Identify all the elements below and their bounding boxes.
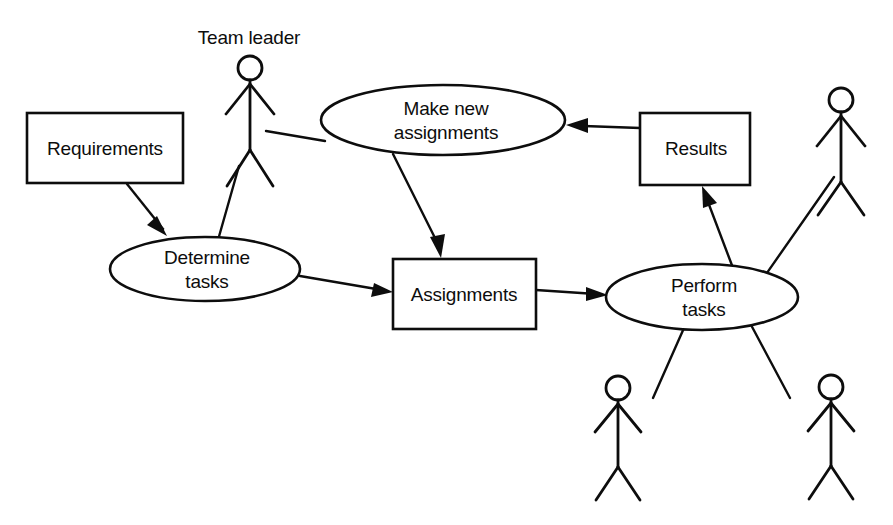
actor-left-leg-line <box>596 467 618 500</box>
flow-make-new-assignments-to-assignments <box>393 154 445 258</box>
perform-tasks-label-line1: Perform <box>671 275 737 296</box>
actor-left-arm-line <box>817 116 841 146</box>
node-make-new-assignments[interactable]: Make new assignments <box>321 85 565 155</box>
diagram-canvas: Requirements Make new assignments Result… <box>0 0 893 525</box>
actor-worker-bottom-left[interactable] <box>595 376 641 500</box>
flow-line <box>300 276 382 290</box>
actor-left-leg-line <box>227 150 250 186</box>
actor-right-arm-line <box>250 84 274 114</box>
actor-team-leader-label: Team leader <box>198 27 301 48</box>
actor-head-icon <box>829 88 853 112</box>
actor-worker-bottom-right[interactable] <box>808 375 854 499</box>
actor-left-arm-line <box>226 84 250 114</box>
make-new-assignments-label-line1: Make new <box>404 98 489 119</box>
arrowhead-icon <box>586 287 608 301</box>
actor-right-leg-line <box>250 150 273 186</box>
assignments-label: Assignments <box>411 284 518 305</box>
actor-right-arm-line <box>841 116 865 146</box>
association-team-leader-make-new-assignments <box>266 131 325 141</box>
flow-line <box>393 154 437 242</box>
association-worker-bottom-right-perform-tasks <box>750 323 790 398</box>
arrowhead-icon <box>566 118 588 133</box>
node-results[interactable]: Results <box>640 113 750 185</box>
actor-worker-right[interactable] <box>817 88 865 215</box>
actor-left-leg-line <box>818 182 841 215</box>
make-new-assignments-ellipse[interactable] <box>321 85 565 155</box>
arrowhead-icon <box>702 186 717 208</box>
actor-left-leg-line <box>809 466 831 499</box>
determine-tasks-label-line2: tasks <box>185 271 228 292</box>
actor-team-leader[interactable]: Team leader <box>198 27 301 186</box>
node-perform-tasks[interactable]: Perform tasks <box>606 264 798 330</box>
actor-right-leg-line <box>841 182 864 215</box>
arrowhead-icon <box>371 283 393 297</box>
association-worker-bottom-left-perform-tasks <box>653 328 684 398</box>
node-determine-tasks[interactable]: Determine tasks <box>110 237 300 301</box>
requirements-label: Requirements <box>47 138 163 159</box>
results-label: Results <box>665 138 727 159</box>
association-team-leader-determine-tasks <box>218 166 239 240</box>
flow-requirements-to-determine-tasks <box>127 184 167 236</box>
arrowhead-icon <box>430 234 445 258</box>
actor-head-icon <box>819 375 843 399</box>
actor-right-leg-line <box>831 466 853 499</box>
actor-left-arm-line <box>595 404 618 432</box>
make-new-assignments-label-line2: assignments <box>394 122 498 143</box>
perform-tasks-ellipse[interactable] <box>606 264 798 330</box>
actor-left-arm-line <box>808 403 831 431</box>
use-case-diagram: Requirements Make new assignments Result… <box>0 0 893 525</box>
actor-right-arm-line <box>831 403 854 431</box>
actor-right-arm-line <box>618 404 641 432</box>
actor-head-icon <box>606 376 630 400</box>
flow-determine-tasks-to-assignments <box>300 276 393 297</box>
actor-head-icon <box>238 56 262 80</box>
flow-line <box>708 202 733 268</box>
flow-perform-tasks-to-results <box>702 186 733 268</box>
perform-tasks-label-line2: tasks <box>682 299 725 320</box>
flow-line <box>584 126 640 128</box>
node-assignments[interactable]: Assignments <box>393 259 536 329</box>
actor-right-leg-line <box>618 467 640 500</box>
node-requirements[interactable]: Requirements <box>27 113 183 183</box>
flow-results-to-make-new-assignments <box>566 118 640 133</box>
determine-tasks-label-line1: Determine <box>164 247 250 268</box>
flow-assignments-to-perform-tasks <box>536 287 608 301</box>
arrowhead-icon <box>147 216 167 236</box>
